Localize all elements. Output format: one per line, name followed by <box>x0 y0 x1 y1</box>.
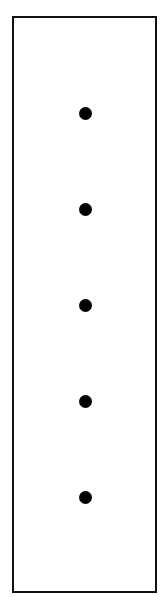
dot-marker <box>79 491 92 504</box>
dot-marker <box>79 107 92 120</box>
dot-marker <box>79 395 92 408</box>
dot-marker <box>79 299 92 312</box>
dot-marker <box>79 203 92 216</box>
